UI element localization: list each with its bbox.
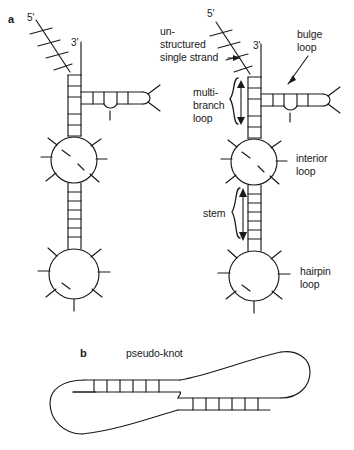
panel-b-letter: b: [80, 347, 87, 360]
stem-label: stem: [203, 207, 225, 220]
hairpin-loop-label-line2: loop: [300, 278, 319, 291]
hairpin-loop-label-line1: hairpin: [300, 265, 331, 278]
rna-structure-figure: [0, 0, 354, 450]
left-three-prime-label: 3': [71, 37, 78, 50]
interior-loop-label-line2: loop: [296, 165, 315, 178]
right-five-prime-label: 5': [207, 8, 214, 21]
unstructured-strand-label-line1: un-: [160, 25, 175, 38]
figure-background: [0, 0, 354, 450]
bulge-loop-label-line1: bulge: [297, 28, 322, 41]
multibranch-loop-label-line3: loop: [193, 112, 212, 125]
pseudoknot-title: pseudo-knot: [126, 347, 183, 360]
interior-loop-label-line1: interior: [296, 152, 327, 165]
multibranch-loop-label-line2: branch: [193, 99, 225, 112]
panel-a-letter: a: [8, 13, 14, 26]
unstructured-strand-label-line2: structured: [160, 38, 206, 51]
bulge-loop-label-line2: loop: [297, 41, 316, 54]
right-three-prime-label: 3': [253, 40, 260, 53]
left-five-prime-label: 5': [27, 12, 34, 25]
multibranch-loop-label-line1: multi-: [193, 86, 218, 99]
unstructured-strand-label-line3: single strand: [160, 51, 218, 64]
